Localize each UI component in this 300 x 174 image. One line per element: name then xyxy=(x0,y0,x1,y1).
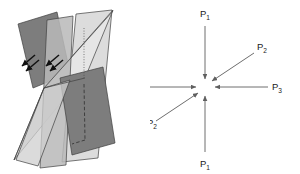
force-vectors-svg: P1 P1 P3 P3 P2 P2 xyxy=(150,0,300,174)
figure-root: P1 P1 P3 P3 P2 P2 xyxy=(0,0,300,174)
vector-p2-lower-left xyxy=(156,93,198,121)
panel-three-planes xyxy=(0,0,150,174)
three-planes-svg xyxy=(0,0,150,174)
vector-p2-upper-right xyxy=(212,53,254,81)
label-p1-top: P1 xyxy=(200,8,210,21)
label-p2-upper-right: P2 xyxy=(257,41,267,54)
label-p3-right: P3 xyxy=(272,81,282,94)
label-p2-lower-left: P2 xyxy=(150,117,157,130)
label-p1-bottom: P1 xyxy=(200,158,210,171)
panel-force-vectors: P1 P1 P3 P3 P2 P2 xyxy=(150,0,300,174)
